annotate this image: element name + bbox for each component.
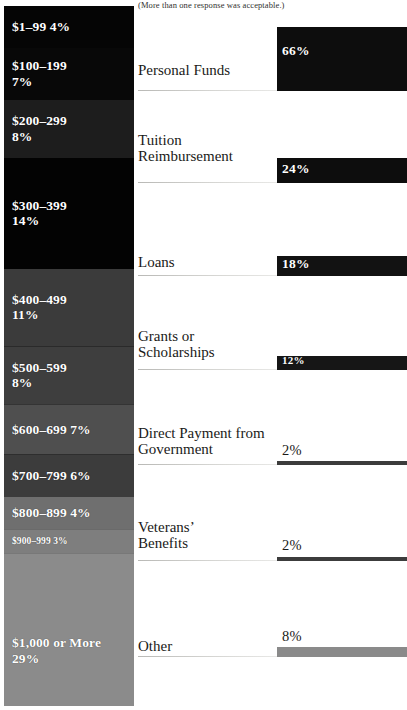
cost-band-label: $200–299 8% (12, 113, 67, 145)
cost-band-label: $1,000 or More 29% (12, 635, 101, 667)
cost-band-label: $300–399 14% (12, 198, 67, 230)
bar-row-baseline (138, 90, 277, 91)
cost-band-800-899: $800–899 4% (4, 497, 134, 529)
bar-value-label: 18% (282, 256, 310, 272)
bar-row-label: Loans (138, 254, 175, 270)
cost-band-400-499: $400–499 11% (4, 269, 134, 346)
bar-row-label: Grants or Scholarships (138, 328, 215, 360)
bar-fill (277, 27, 407, 91)
funding-sources-chart: (More than one response was acceptable.)… (136, 0, 407, 710)
cost-band-500-599: $500–599 8% (4, 346, 134, 404)
bar-row-grants-scholarships: Grants or Scholarships 12% (136, 276, 407, 371)
bar-fill (277, 461, 407, 465)
bar-value-label: 2% (282, 537, 302, 554)
cost-band-900-999: $900–999 3% (4, 529, 134, 553)
cost-band-label: $400–499 11% (12, 292, 67, 324)
bar-row-label: Personal Funds (138, 62, 230, 78)
cost-band-label: $900–999 3% (12, 536, 68, 547)
bar-row-loans: Loans 18% (136, 184, 407, 276)
cost-band-label: $800–899 4% (12, 505, 91, 521)
cost-band-100-199: $100–199 7% (4, 48, 134, 100)
bar-row-label: Direct Payment from Government (138, 425, 265, 457)
bar-row-baseline (138, 560, 277, 561)
bar-row-direct-payment-government: Direct Payment from Government 2% (136, 371, 407, 466)
bar-fill (277, 647, 407, 657)
bar-row-baseline (138, 182, 277, 183)
cost-band-200-299: $200–299 8% (4, 100, 134, 158)
infographic-page: $1–99 4% $100–199 7% $200–299 8% $300–39… (0, 0, 407, 710)
bar-row-baseline (138, 464, 277, 465)
cost-band-label: $100–199 7% (12, 58, 67, 90)
bar-row-baseline (138, 656, 277, 657)
bar-row-tuition-reimbursement: Tuition Reimbursement 24% (136, 92, 407, 184)
bar-row-other: Other 8% (136, 562, 407, 658)
cost-band-label: $1–99 4% (12, 19, 70, 35)
cost-band-1-99: $1–99 4% (4, 6, 134, 48)
bar-row-personal-funds: Personal Funds 66% (136, 0, 407, 92)
cost-band-700-799: $700–799 6% (4, 454, 134, 497)
bar-value-label: 24% (282, 161, 310, 177)
cost-band-label: $600–699 7% (12, 422, 91, 438)
bar-row-label: Tuition Reimbursement (138, 132, 233, 164)
bar-row-label: Other (138, 638, 172, 654)
bar-row-baseline (138, 369, 277, 370)
cost-band-300-399: $300–399 14% (4, 158, 134, 269)
cost-band-1000-or-more: $1,000 or More 29% (4, 553, 134, 706)
bar-row-label: Veterans’ Benefits (138, 519, 195, 551)
bar-row-veterans-benefits: Veterans’ Benefits 2% (136, 466, 407, 562)
bar-value-label: 2% (282, 442, 302, 459)
bar-value-label: 12% (282, 354, 305, 366)
bar-value-label: 66% (282, 43, 310, 59)
cost-band-label: $500–599 8% (12, 360, 67, 392)
bar-value-label: 8% (282, 628, 302, 645)
cost-band-label: $700–799 6% (12, 468, 91, 484)
bar-fill (277, 557, 407, 561)
cost-distribution-column: $1–99 4% $100–199 7% $200–299 8% $300–39… (4, 6, 134, 706)
cost-band-600-699: $600–699 7% (4, 404, 134, 454)
